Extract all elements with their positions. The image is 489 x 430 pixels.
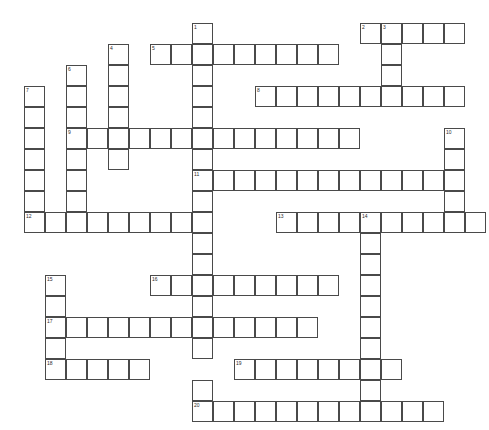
crossword-cell[interactable] [192, 212, 213, 233]
crossword-cell-numbered-3[interactable]: 3 [381, 23, 402, 44]
crossword-cell[interactable] [360, 233, 381, 254]
crossword-cell[interactable] [360, 317, 381, 338]
crossword-cell[interactable] [192, 233, 213, 254]
crossword-cell[interactable] [339, 212, 360, 233]
crossword-cell[interactable] [192, 380, 213, 401]
crossword-cell[interactable] [297, 401, 318, 422]
crossword-cell[interactable] [255, 44, 276, 65]
crossword-cell-numbered-16[interactable]: 16 [150, 275, 171, 296]
crossword-cell[interactable] [423, 401, 444, 422]
crossword-cell[interactable] [360, 254, 381, 275]
crossword-cell[interactable] [66, 212, 87, 233]
crossword-cell[interactable] [171, 128, 192, 149]
crossword-cell[interactable] [318, 275, 339, 296]
crossword-cell[interactable] [423, 212, 444, 233]
crossword-cell[interactable] [402, 401, 423, 422]
crossword-cell[interactable] [339, 401, 360, 422]
crossword-cell[interactable] [87, 128, 108, 149]
crossword-cell[interactable] [213, 44, 234, 65]
crossword-cell[interactable] [171, 212, 192, 233]
crossword-cell[interactable] [360, 359, 381, 380]
crossword-cell[interactable] [381, 86, 402, 107]
crossword-cell[interactable] [276, 170, 297, 191]
crossword-cell[interactable] [213, 128, 234, 149]
crossword-cell[interactable] [465, 212, 486, 233]
crossword-cell[interactable] [444, 149, 465, 170]
crossword-cell[interactable] [192, 317, 213, 338]
crossword-cell[interactable] [402, 23, 423, 44]
crossword-cell-numbered-11[interactable]: 11 [192, 170, 213, 191]
crossword-cell[interactable] [318, 128, 339, 149]
crossword-cell[interactable] [108, 65, 129, 86]
crossword-cell[interactable] [192, 338, 213, 359]
crossword-cell[interactable] [24, 170, 45, 191]
crossword-cell[interactable] [255, 170, 276, 191]
crossword-cell[interactable] [192, 254, 213, 275]
crossword-cell[interactable] [108, 212, 129, 233]
crossword-cell[interactable] [318, 44, 339, 65]
crossword-cell[interactable] [423, 23, 444, 44]
crossword-cell[interactable] [339, 359, 360, 380]
crossword-cell-numbered-5[interactable]: 5 [150, 44, 171, 65]
crossword-cell[interactable] [318, 359, 339, 380]
crossword-cell[interactable] [339, 86, 360, 107]
crossword-cell[interactable] [276, 128, 297, 149]
crossword-cell[interactable] [276, 359, 297, 380]
crossword-cell[interactable] [150, 128, 171, 149]
crossword-cell[interactable] [444, 212, 465, 233]
crossword-cell[interactable] [381, 65, 402, 86]
crossword-cell-numbered-12[interactable]: 12 [24, 212, 45, 233]
crossword-cell[interactable] [318, 170, 339, 191]
crossword-cell[interactable] [255, 275, 276, 296]
crossword-cell[interactable] [297, 275, 318, 296]
crossword-cell-numbered-15[interactable]: 15 [45, 275, 66, 296]
crossword-cell[interactable] [108, 359, 129, 380]
crossword-cell[interactable] [423, 170, 444, 191]
crossword-cell[interactable] [87, 359, 108, 380]
crossword-cell-numbered-20[interactable]: 20 [192, 401, 213, 422]
crossword-cell[interactable] [108, 317, 129, 338]
crossword-cell[interactable] [318, 86, 339, 107]
crossword-cell[interactable] [108, 107, 129, 128]
crossword-cell[interactable] [108, 128, 129, 149]
crossword-cell[interactable] [444, 86, 465, 107]
crossword-cell[interactable] [150, 317, 171, 338]
crossword-cell[interactable] [318, 401, 339, 422]
crossword-cell[interactable] [360, 275, 381, 296]
crossword-cell[interactable] [255, 401, 276, 422]
crossword-cell[interactable] [129, 128, 150, 149]
crossword-cell[interactable] [66, 359, 87, 380]
crossword-cell[interactable] [171, 44, 192, 65]
crossword-cell[interactable] [213, 401, 234, 422]
crossword-cell[interactable] [402, 170, 423, 191]
crossword-cell[interactable] [24, 191, 45, 212]
crossword-cell[interactable] [255, 359, 276, 380]
crossword-cell[interactable] [360, 401, 381, 422]
crossword-cell[interactable] [339, 170, 360, 191]
crossword-cell[interactable] [24, 107, 45, 128]
crossword-cell[interactable] [360, 86, 381, 107]
crossword-cell[interactable] [192, 86, 213, 107]
crossword-cell[interactable] [45, 338, 66, 359]
crossword-cell[interactable] [129, 359, 150, 380]
crossword-cell[interactable] [192, 275, 213, 296]
crossword-cell[interactable] [381, 170, 402, 191]
crossword-cell[interactable] [423, 86, 444, 107]
crossword-cell[interactable] [297, 212, 318, 233]
crossword-cell[interactable] [171, 275, 192, 296]
crossword-cell[interactable] [402, 86, 423, 107]
crossword-cell[interactable] [381, 401, 402, 422]
crossword-cell[interactable] [192, 44, 213, 65]
crossword-cell[interactable] [360, 338, 381, 359]
crossword-cell[interactable] [381, 359, 402, 380]
crossword-cell[interactable] [276, 401, 297, 422]
crossword-cell[interactable] [129, 317, 150, 338]
crossword-cell-numbered-6[interactable]: 6 [66, 65, 87, 86]
crossword-cell[interactable] [24, 149, 45, 170]
crossword-cell-numbered-2[interactable]: 2 [360, 23, 381, 44]
crossword-cell[interactable] [444, 23, 465, 44]
crossword-cell[interactable] [360, 380, 381, 401]
crossword-cell[interactable] [66, 191, 87, 212]
crossword-cell[interactable] [318, 212, 339, 233]
crossword-cell[interactable] [276, 275, 297, 296]
